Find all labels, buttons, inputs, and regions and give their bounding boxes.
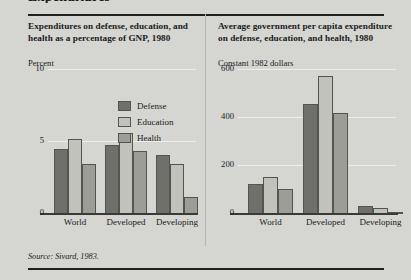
bar-developed-defense	[303, 104, 318, 214]
y-tick-label-200: 200	[208, 159, 234, 169]
source-note: Source: Sivard, 1983.	[28, 252, 99, 261]
chart-title-left: Expenditures on defense, education, and …	[28, 21, 196, 44]
chart-panel-left: Expenditures on defense, education, and …	[0, 14, 205, 246]
bar-world-defense	[248, 184, 263, 214]
chart-title-right: Average government per capita expenditur…	[218, 21, 398, 44]
figure-page: Expenditures Expenditures on defense, ed…	[0, 0, 411, 280]
y-tick-label-5: 5	[18, 135, 44, 145]
x-axis-label-world: World	[240, 217, 301, 227]
legend-item-education: Education	[118, 115, 174, 128]
bar-developing-education	[170, 164, 184, 214]
gridline-600	[238, 69, 396, 70]
legend: Defense Education Health	[118, 99, 174, 147]
bar-developing-health	[184, 197, 198, 214]
bar-developed-defense	[105, 145, 119, 214]
x-axis-label-developed: Developed	[295, 217, 356, 227]
legend-label-defense: Defense	[137, 101, 166, 111]
cutoff-heading-fragment: Expenditures	[0, 0, 411, 3]
x-axis-line-left	[40, 213, 198, 215]
bar-world-health	[82, 164, 96, 214]
legend-item-defense: Defense	[118, 99, 174, 112]
y-tick-label-0: 0	[18, 207, 44, 217]
bar-world-health	[278, 189, 293, 214]
y-tick-label-600: 600	[208, 63, 234, 73]
plot-area-right	[238, 69, 396, 214]
x-axis-label-developed: Developed	[97, 217, 155, 227]
bar-world-defense	[54, 149, 68, 214]
x-axis-label-developing: Developing	[148, 217, 206, 227]
bar-developed-health	[333, 113, 348, 214]
legend-label-health: Health	[137, 133, 161, 143]
legend-swatch-health	[118, 133, 131, 143]
x-axis-label-world: World	[46, 217, 104, 227]
y-tick-label-400: 400	[208, 111, 234, 121]
y-tick-label-0: 0	[208, 207, 234, 217]
chart-panel-right: Average government per capita expenditur…	[206, 14, 411, 246]
x-axis-line-right	[230, 213, 398, 215]
bottom-rule	[28, 268, 384, 270]
gridline-10	[48, 69, 196, 70]
bar-developed-health	[133, 151, 147, 214]
x-axis-label-developing: Developing	[350, 217, 411, 227]
bar-developing-defense	[156, 155, 170, 214]
bar-world-education	[68, 139, 82, 214]
y-tick-label-10: 10	[18, 63, 44, 73]
legend-label-education: Education	[137, 117, 174, 127]
legend-item-health: Health	[118, 131, 174, 144]
bar-developed-education	[318, 76, 333, 214]
legend-swatch-defense	[118, 101, 131, 111]
bar-world-education	[263, 177, 278, 214]
legend-swatch-education	[118, 117, 131, 127]
